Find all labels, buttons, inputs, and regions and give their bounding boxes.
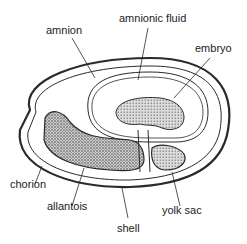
label-allantois: allantois bbox=[47, 200, 87, 212]
label-chorion: chorion bbox=[10, 178, 46, 190]
label-amnion: amnion bbox=[46, 24, 82, 36]
label-embryo: embryo bbox=[195, 42, 232, 54]
label-amnionic-fluid: amnionic fluid bbox=[119, 12, 186, 24]
label-yolk-sac: yolk sac bbox=[162, 204, 202, 216]
label-shell: shell bbox=[117, 222, 140, 234]
egg-diagram bbox=[0, 0, 247, 244]
